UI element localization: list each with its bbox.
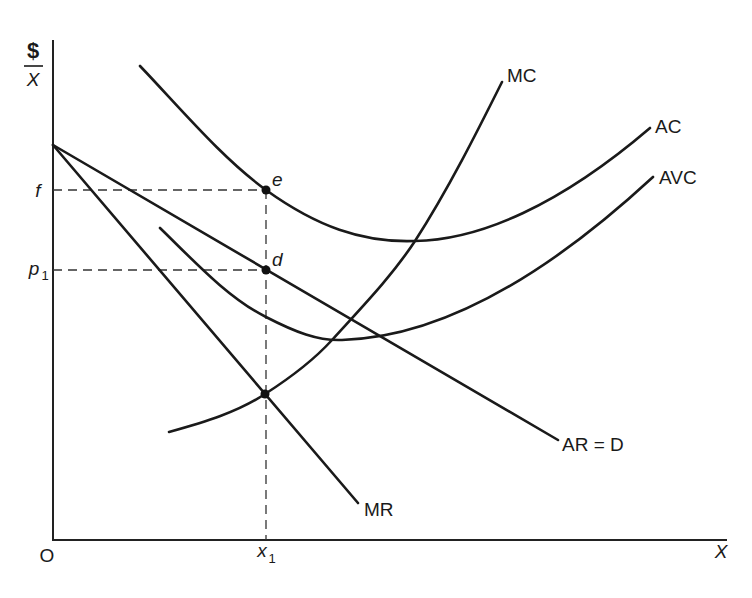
point-d-label: d: [272, 249, 284, 270]
avc-label: AVC: [659, 167, 697, 188]
avc-curve: [160, 177, 653, 340]
origin-label: O: [40, 545, 55, 566]
point-d-marker: [262, 266, 271, 275]
point-e-marker: [262, 186, 271, 195]
x1-label: x 1: [256, 540, 275, 566]
x-axis-label: X: [714, 541, 729, 562]
mr-label: MR: [364, 499, 394, 520]
mc-label: MC: [507, 65, 537, 86]
f-label: f: [35, 180, 42, 201]
demand-curve: [53, 145, 558, 440]
mr-curve: [53, 145, 358, 503]
y-axis-label-dollar: $: [27, 38, 39, 63]
point-e-label: e: [272, 169, 283, 190]
ar-d-label: AR = D: [562, 434, 624, 455]
cost-revenue-chart: $ X O X f p 1 x 1 e d MC AC AVC AR = D M…: [0, 0, 752, 598]
y-axis-label-x: X: [26, 69, 41, 90]
ac-curve: [140, 66, 650, 241]
p1-label: p 1: [28, 258, 49, 283]
svg-text:1: 1: [268, 551, 275, 566]
svg-text:p: p: [28, 258, 40, 279]
ac-label: AC: [655, 116, 681, 137]
svg-text:x: x: [256, 540, 268, 561]
svg-text:1: 1: [41, 268, 48, 283]
mc-mr-intersection-marker: [261, 390, 270, 399]
